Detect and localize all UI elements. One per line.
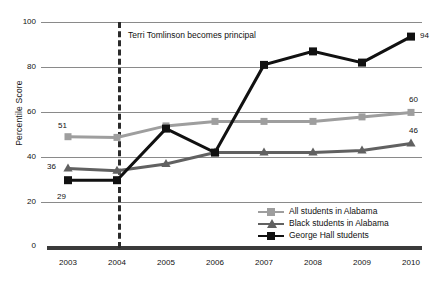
series-line-george-hall xyxy=(68,37,411,181)
series-markers-all-students xyxy=(65,109,415,141)
x-tick-label-2007: 2007 xyxy=(244,258,284,267)
series-line-black-students xyxy=(68,144,411,171)
x-tick-label-2006: 2006 xyxy=(195,258,235,267)
x-tick-label-2003: 2003 xyxy=(48,258,88,267)
point-label-60: 60 xyxy=(409,95,418,104)
point-label-29: 29 xyxy=(57,192,66,201)
legend-swatch-black-square-icon xyxy=(258,231,284,240)
legend-label-black-students: Black students in Alabama xyxy=(289,219,389,228)
point-label-51: 51 xyxy=(58,121,67,130)
x-tick-label-2010: 2010 xyxy=(391,258,431,267)
point-label-36: 36 xyxy=(47,162,56,171)
legend-label-george-hall: George Hall students xyxy=(289,231,369,240)
legend-swatch-square-icon xyxy=(258,207,284,216)
point-label-46: 46 xyxy=(409,126,418,135)
legend-item-george-hall: George Hall students xyxy=(258,230,389,241)
x-tick-label-2004: 2004 xyxy=(97,258,137,267)
chart-legend: All students in Alabama Black students i… xyxy=(258,206,389,242)
x-tick-label-2009: 2009 xyxy=(342,258,382,267)
line-chart: Percentile Score 100 80 60 40 20 0 Terri… xyxy=(0,0,441,283)
point-label-94: 94 xyxy=(420,31,429,40)
legend-label-all-students: All students in Alabama xyxy=(289,207,377,216)
series-markers-black-students xyxy=(63,139,415,174)
x-tick-label-2005: 2005 xyxy=(146,258,186,267)
x-tick-label-2008: 2008 xyxy=(293,258,333,267)
legend-item-black-students: Black students in Alabama xyxy=(258,218,389,229)
legend-item-all-students: All students in Alabama xyxy=(258,206,389,217)
legend-swatch-triangle-icon xyxy=(258,219,284,228)
